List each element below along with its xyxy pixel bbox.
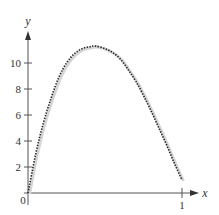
y-tick-label-4: 4 xyxy=(16,135,22,147)
y-tick-label-10: 10 xyxy=(10,57,22,69)
y-tick-label-2: 2 xyxy=(16,161,22,173)
x-tick-label-1: 1 xyxy=(179,199,185,211)
y-tick-label-6: 6 xyxy=(16,109,22,121)
y-axis-arrow-icon xyxy=(25,31,31,40)
y-tick-label-8: 8 xyxy=(16,83,22,95)
x-axis-label: x xyxy=(201,186,208,200)
x-axis-arrow-icon xyxy=(190,190,199,196)
curve-shadow xyxy=(30,47,184,194)
line-chart: 2 4 6 8 10 0 1 y x xyxy=(0,0,219,215)
origin-label: 0 xyxy=(20,194,26,206)
chart-svg: 2 4 6 8 10 0 1 y x xyxy=(0,0,219,215)
curve-line xyxy=(28,46,182,193)
y-axis-label: y xyxy=(24,14,31,28)
